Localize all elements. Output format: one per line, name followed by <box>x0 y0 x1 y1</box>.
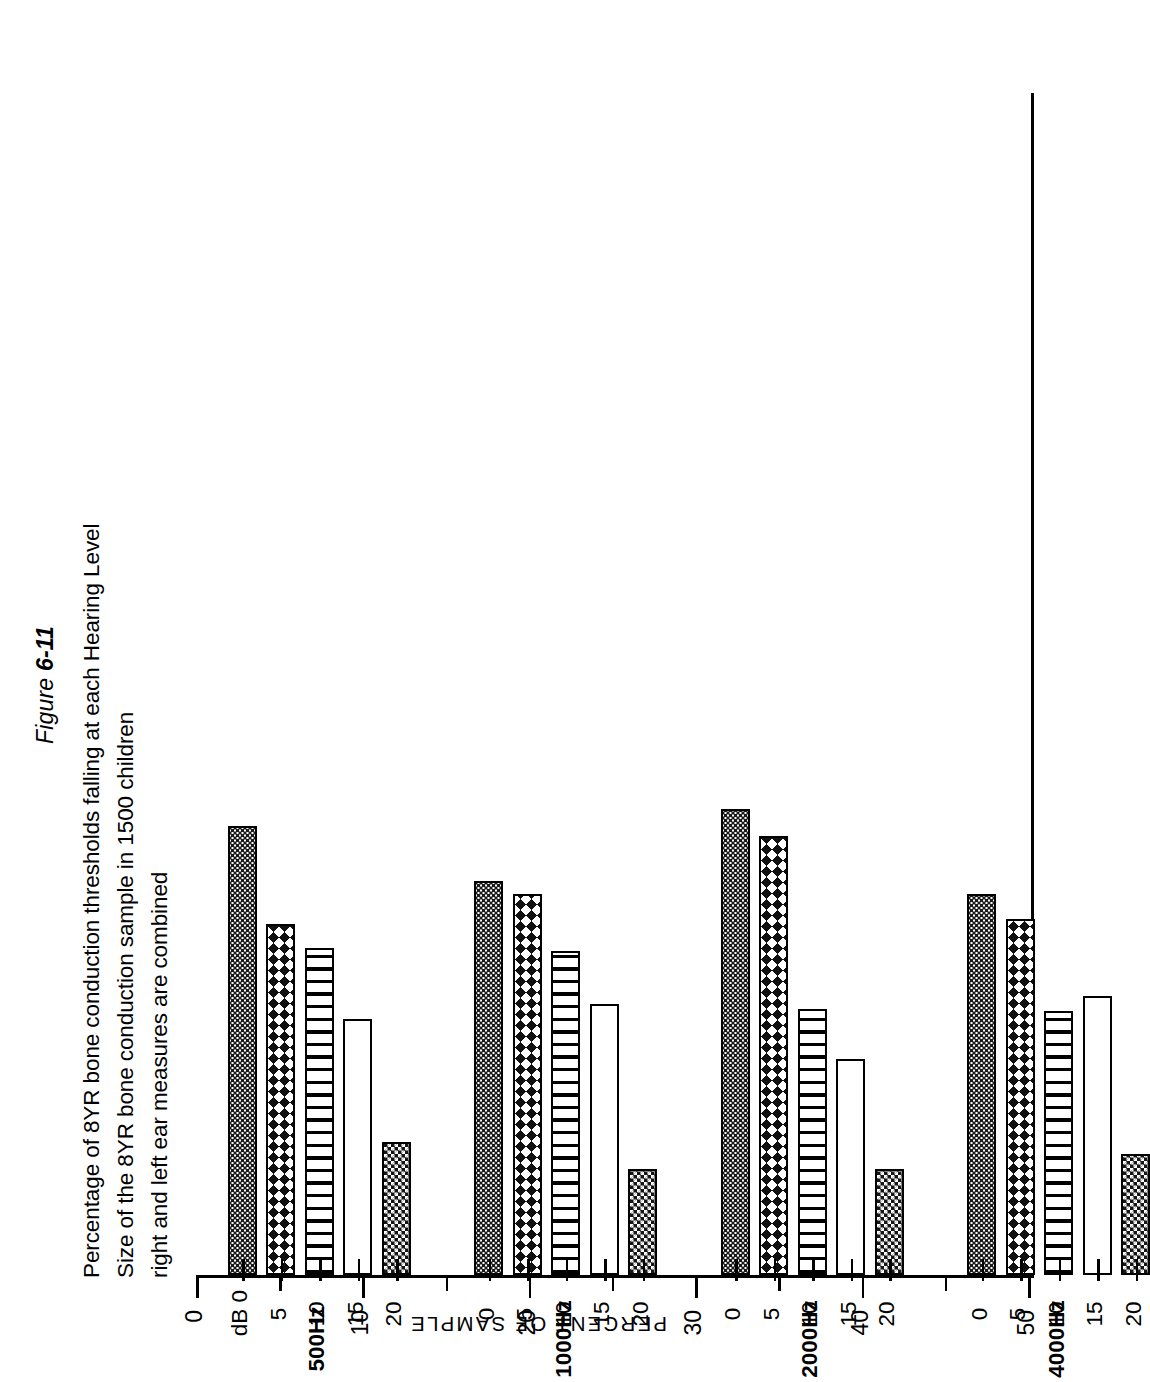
bar-4000Hz-15dB <box>1083 996 1112 1276</box>
category-tick <box>735 1259 738 1281</box>
level-label-500Hz-5: 5 <box>266 1290 292 1338</box>
bar-4000Hz-0dB <box>967 894 996 1275</box>
bar-4000Hz-20dB <box>1121 1154 1150 1275</box>
bar-500Hz-0dB <box>228 826 257 1275</box>
level-label-500Hz-20: 20 <box>381 1290 407 1338</box>
level-label-1000Hz-0: 0 <box>474 1290 500 1338</box>
caption-line-3: right and left ear measures are combined <box>143 0 177 1278</box>
category-tick <box>604 1259 607 1281</box>
value-tick-minor <box>945 1278 947 1291</box>
level-label-4000Hz-5: 5 <box>1005 1290 1031 1338</box>
category-tick <box>889 1259 892 1281</box>
category-tick <box>281 1259 284 1281</box>
group-label-500Hz: 500Hz <box>304 1254 330 1382</box>
bar-1000Hz-5dB <box>513 894 542 1275</box>
level-label-500Hz-15: 15 <box>343 1290 369 1338</box>
caption-line-2: Size of the 8YR bone conduction sample i… <box>109 0 143 1278</box>
level-label-2000Hz-15: 15 <box>836 1290 862 1338</box>
bar-500Hz-10dB <box>305 948 334 1276</box>
bar-4000Hz-10dB <box>1044 1011 1073 1276</box>
category-tick <box>396 1259 399 1281</box>
bar-series-container <box>196 95 1031 1275</box>
category-tick <box>242 1259 245 1281</box>
figure-number-value: 6-11 <box>32 626 58 671</box>
group-label-4000Hz: 4000Hz <box>1044 1254 1070 1382</box>
category-tick <box>643 1259 646 1281</box>
level-label-4000Hz-15: 15 <box>1082 1290 1108 1338</box>
caption-line-1: Percentage of 8YR bone conduction thresh… <box>75 0 109 1278</box>
category-tick <box>774 1259 777 1281</box>
category-tick <box>1136 1259 1139 1281</box>
value-tick-label: 0 <box>181 1310 208 1370</box>
bar-1000Hz-15dB <box>590 1004 619 1275</box>
figure-title-block: Figure 6-11 Percentage of 8YR bone condu… <box>32 0 177 1370</box>
category-tick <box>358 1259 361 1281</box>
value-tick-major <box>862 1278 865 1298</box>
value-tick-minor <box>446 1278 448 1291</box>
level-label-500Hz-0: dB 0 <box>227 1290 253 1374</box>
bar-2000Hz-15dB <box>836 1059 865 1275</box>
bar-500Hz-15dB <box>343 1019 372 1275</box>
category-tick <box>1097 1259 1100 1281</box>
bar-1000Hz-0dB <box>474 881 503 1275</box>
bar-4000Hz-5dB <box>1006 919 1035 1275</box>
category-tick <box>489 1259 492 1281</box>
category-tick <box>982 1259 985 1281</box>
value-tick-major <box>695 1278 698 1298</box>
bar-1000Hz-10dB <box>551 951 580 1275</box>
level-label-4000Hz-0: 0 <box>967 1290 993 1338</box>
group-label-1000Hz: 1000Hz <box>551 1254 577 1382</box>
level-label-1000Hz-15: 15 <box>589 1290 615 1338</box>
bar-2000Hz-5dB <box>759 836 788 1275</box>
category-tick <box>851 1259 854 1281</box>
level-label-2000Hz-20: 20 <box>874 1290 900 1338</box>
category-tick <box>527 1259 530 1281</box>
value-tick-label: 30 <box>680 1310 707 1370</box>
category-tick <box>1020 1259 1023 1281</box>
bar-2000Hz-10dB <box>798 1009 827 1275</box>
figure-number-prefix: Figure <box>32 671 58 744</box>
level-label-2000Hz-0: 0 <box>720 1290 746 1338</box>
level-label-1000Hz-5: 5 <box>512 1290 538 1338</box>
plot-area: PERCENT OF SAMPLE 01020304050 dB 0510152… <box>196 93 1056 1278</box>
bar-2000Hz-0dB <box>721 810 750 1276</box>
bar-500Hz-20dB <box>382 1142 411 1275</box>
level-label-2000Hz-5: 5 <box>759 1290 785 1338</box>
value-tick-major <box>196 1278 199 1298</box>
bar-500Hz-5dB <box>266 924 295 1275</box>
level-label-4000Hz-20: 20 <box>1121 1290 1147 1338</box>
figure-number: Figure 6-11 <box>32 0 59 1370</box>
group-label-2000Hz: 2000Hz <box>797 1254 823 1382</box>
level-label-1000Hz-20: 20 <box>628 1290 654 1338</box>
